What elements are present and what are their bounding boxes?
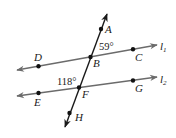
point-H — [67, 111, 71, 115]
angle-118-label: 118° — [57, 76, 77, 87]
label-l2: l2 — [160, 73, 167, 87]
label-E: E — [33, 96, 41, 108]
label-F: F — [81, 88, 89, 100]
point-A — [99, 27, 103, 31]
angle-59-label: 59° — [99, 41, 114, 52]
point-F — [77, 85, 81, 89]
label-A: A — [104, 23, 112, 35]
geometry-diagram: A B C D E F G H 59° 118° l1 l2 — [0, 0, 176, 138]
label-C: C — [135, 51, 143, 63]
label-H: H — [74, 111, 84, 123]
label-G: G — [135, 82, 143, 94]
label-B: B — [93, 57, 100, 69]
label-D: D — [33, 51, 42, 63]
point-D — [36, 64, 40, 68]
label-l1: l1 — [160, 40, 167, 54]
point-E — [36, 91, 40, 95]
